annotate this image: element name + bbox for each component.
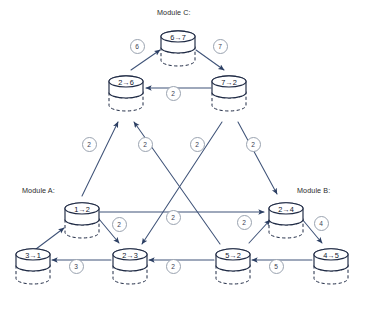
edge-weight-e-72-23: 2 — [190, 137, 205, 152]
diagram-canvas: 6→72→67→21→22→43→12→35→24→5 672222222243… — [0, 0, 368, 310]
node-label-n52: 5→2 — [203, 251, 263, 260]
edge-weight-e-72-24: 2 — [246, 137, 261, 152]
node-label-n31: 3→1 — [3, 251, 63, 260]
module-b-label: Module B: — [297, 186, 330, 195]
edge-weight-e-52-24: 2 — [237, 215, 252, 230]
edge-weight-e-45-52: 5 — [269, 259, 284, 274]
edge-weight-e-12-26: 2 — [82, 137, 97, 152]
edge-weight-e-72-26: 2 — [166, 86, 181, 101]
edge-weight-e-26-67: 6 — [130, 39, 145, 54]
edge-weight-e-12-23: 2 — [112, 217, 127, 232]
node-label-n67: 6→7 — [148, 33, 208, 42]
node-label-n23: 2→3 — [100, 251, 160, 260]
edge-weight-e-23-31: 3 — [69, 259, 84, 274]
edge-weight-e-67-72: 7 — [213, 39, 228, 54]
node-label-n12: 1→2 — [52, 205, 112, 214]
module-a-label: Module A: — [22, 186, 55, 195]
node-label-n24: 2→4 — [256, 205, 316, 214]
edge-weight-e-12-24: 2 — [166, 210, 181, 225]
node-label-n45: 4→5 — [301, 251, 361, 260]
edge-weight-e-24-45: 4 — [314, 216, 329, 231]
module-c-label: Module C: — [157, 8, 191, 17]
node-label-n72: 7→2 — [199, 78, 259, 87]
edge-weight-e-52-23: 2 — [166, 259, 181, 274]
edge-weight-e-52-26: 2 — [138, 137, 153, 152]
node-layer — [0, 0, 368, 310]
node-label-n26: 2→6 — [96, 78, 156, 87]
